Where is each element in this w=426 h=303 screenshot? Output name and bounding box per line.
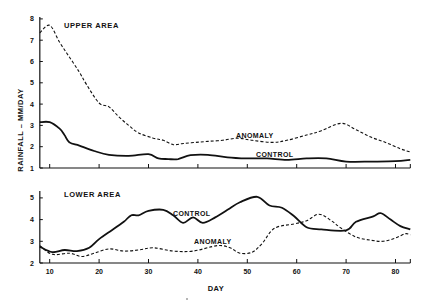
x-tick-label: 20 bbox=[95, 268, 103, 275]
y-tick-label: 5 bbox=[30, 194, 34, 201]
x-tick-label: 70 bbox=[342, 268, 350, 275]
y-tick-label: 5 bbox=[30, 79, 34, 86]
upper-area-panel: 12345678 UPPER AREA ANOMALY CONTROL bbox=[30, 15, 410, 171]
x-tick-label: 60 bbox=[293, 268, 301, 275]
x-tick-label: 40 bbox=[194, 268, 202, 275]
x-axis-title: DAY bbox=[208, 284, 225, 293]
y-tick-label: 4 bbox=[30, 216, 34, 223]
y-axis-title: RAINFALL – MM/DAY bbox=[16, 88, 25, 172]
upper-anomaly-label: ANOMALY bbox=[236, 132, 274, 139]
lower-anomaly-line bbox=[40, 214, 411, 256]
lower-area-panel: 23451020304050607080 LOWER AREA CONTROL … bbox=[30, 190, 410, 275]
rainfall-chart: 12345678 UPPER AREA ANOMALY CONTROL 2345… bbox=[0, 0, 426, 303]
y-tick-label: 1 bbox=[30, 165, 34, 172]
y-tick-label: 2 bbox=[30, 143, 34, 150]
x-tick-label: 10 bbox=[46, 268, 54, 275]
upper-anomaly-line bbox=[40, 25, 411, 152]
y-tick-label: 4 bbox=[30, 101, 34, 108]
lower-anomaly-label: ANOMALY bbox=[194, 238, 232, 245]
y-tick-label: 6 bbox=[30, 58, 34, 65]
x-tick-label: 50 bbox=[243, 268, 251, 275]
upper-control-line bbox=[40, 122, 411, 162]
upper-area-title: UPPER AREA bbox=[64, 21, 119, 30]
y-tick-label: 3 bbox=[30, 238, 34, 245]
x-tick-label: 80 bbox=[392, 268, 400, 275]
x-tick-label: 30 bbox=[145, 268, 153, 275]
stray-dot bbox=[186, 298, 187, 299]
lower-axes: 23451020304050607080 bbox=[30, 191, 410, 275]
upper-control-label: CONTROL bbox=[256, 151, 294, 158]
lower-area-title: LOWER AREA bbox=[64, 190, 121, 199]
y-tick-label: 2 bbox=[30, 260, 34, 267]
y-tick-label: 8 bbox=[30, 15, 34, 22]
y-tick-label: 3 bbox=[30, 122, 34, 129]
lower-control-label: CONTROL bbox=[173, 210, 211, 217]
y-tick-label: 7 bbox=[30, 37, 34, 44]
